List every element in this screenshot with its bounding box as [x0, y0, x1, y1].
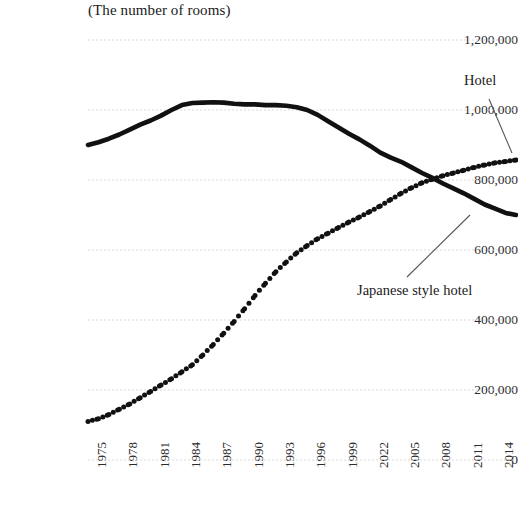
series-dot [420, 180, 425, 185]
series-dot [263, 281, 268, 286]
series-dot [257, 288, 262, 293]
series-dot [357, 215, 362, 220]
series-dot [159, 383, 164, 388]
series-dot [315, 236, 320, 241]
series-dot [100, 414, 105, 419]
series-dot [403, 188, 408, 193]
series-dot [440, 173, 445, 178]
series-dot [455, 169, 460, 174]
chart-container: (The number of rooms) 0200,000400,000600… [0, 0, 518, 508]
series-dot [90, 418, 95, 423]
series-dot [378, 203, 383, 208]
series-dot [424, 179, 429, 184]
series-dot [138, 395, 143, 400]
series-dot [336, 225, 341, 230]
series-line-hotel [88, 102, 516, 215]
series-dot [399, 191, 404, 196]
series-dot [284, 259, 289, 264]
series-dot [487, 162, 492, 167]
series-dot [493, 160, 498, 165]
series-dot [482, 162, 487, 167]
series-dot [340, 223, 345, 228]
series-dot [309, 240, 314, 245]
series-dot [142, 393, 147, 398]
series-dot [106, 412, 111, 417]
series-dot [461, 168, 466, 173]
series-dot [445, 172, 450, 177]
series-annotation-japanese-style-hotel: Japanese style hotel [357, 282, 472, 299]
series-dot [132, 399, 137, 404]
series-dot [111, 410, 116, 415]
series-dot [472, 165, 477, 170]
hotel-leader-line [489, 99, 512, 153]
series-dot [221, 331, 226, 336]
japanese-style-hotel-leader-line [407, 215, 470, 277]
series-dot [466, 167, 471, 172]
series-dot [507, 158, 512, 163]
series-dot [211, 342, 216, 347]
series-dot [388, 197, 393, 202]
series-annotation-hotel: Hotel [464, 72, 496, 89]
series-dot [497, 160, 502, 165]
series-layer [86, 102, 518, 424]
series-dot [173, 373, 178, 378]
series-dot [413, 183, 418, 188]
series-dot [267, 276, 272, 281]
series-dot [190, 362, 195, 367]
series-dot [278, 265, 283, 270]
series-dot [200, 353, 205, 358]
series-dot [320, 234, 325, 239]
series-dot [346, 220, 351, 225]
series-dot [236, 314, 241, 319]
series-dot [294, 250, 299, 255]
series-dot [226, 326, 231, 331]
series-dot [163, 380, 168, 385]
series-dot [153, 386, 158, 391]
series-dot [205, 348, 210, 353]
series-dot [393, 194, 398, 199]
series-dot [194, 358, 199, 363]
series-dot [273, 269, 278, 274]
series-dot [330, 228, 335, 233]
series-dot [179, 369, 184, 374]
plot-area [0, 0, 518, 508]
series-dot [503, 159, 508, 164]
series-dot [117, 407, 122, 412]
series-dot [246, 301, 251, 306]
series-dot [409, 185, 414, 190]
series-dot [367, 209, 372, 214]
series-dot [121, 405, 126, 410]
series-dot [288, 256, 293, 261]
series-dot [361, 212, 366, 217]
series-dot [215, 337, 220, 342]
series-dot [326, 231, 331, 236]
series-dot [476, 164, 481, 169]
series-dot [232, 319, 237, 324]
series-dot [451, 171, 456, 176]
series-dot [299, 247, 304, 252]
series-dot [351, 217, 356, 222]
series-dot [96, 416, 101, 421]
series-dot [253, 293, 258, 298]
series-dot [127, 402, 132, 407]
series-dot [382, 201, 387, 206]
series-dot [372, 207, 377, 212]
series-dot [148, 389, 153, 394]
series-dot [305, 243, 310, 248]
series-dot [242, 306, 247, 311]
series-dot [184, 366, 189, 371]
series-dot [86, 419, 91, 424]
series-dot [169, 376, 174, 381]
